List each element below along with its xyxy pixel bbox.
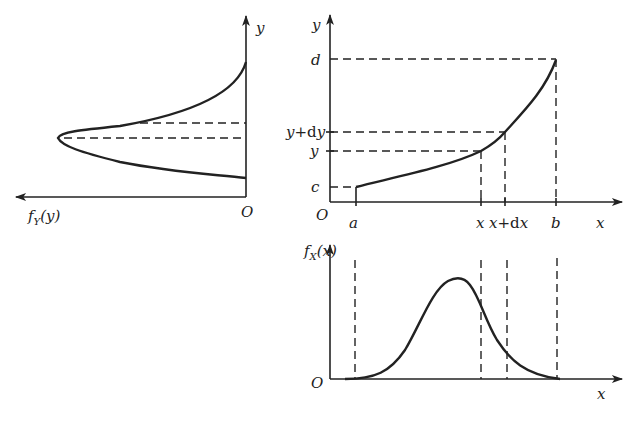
- tr-label-a: a: [349, 214, 358, 232]
- bottom-panel: fX(x) O x: [303, 242, 622, 403]
- diagram-canvas: y O fY(y) y x O d y+dy y c a x x+dx b: [0, 0, 638, 424]
- left-fy-label: fY(y): [27, 207, 60, 227]
- bottom-x-axis-label: x: [597, 385, 606, 403]
- bottom-fx-label: fX(x): [303, 242, 337, 262]
- left-panel: y O fY(y): [16, 16, 265, 227]
- tr-label-x: x: [476, 214, 485, 232]
- tr-label-d: d: [311, 51, 321, 69]
- tr-origin-label: O: [316, 206, 328, 224]
- left-y-axis-label: y: [255, 19, 265, 37]
- left-density-curve: [58, 62, 246, 178]
- left-origin-label: O: [241, 203, 253, 221]
- tr-label-c: c: [311, 178, 320, 196]
- tr-y-axis-label: y: [311, 16, 321, 34]
- top-right-panel: y x O d y+dy y c a x x+dx b: [285, 15, 622, 232]
- tr-x-axis-label: x: [596, 214, 605, 232]
- bottom-density-curve: [345, 278, 560, 379]
- tr-label-y: y: [309, 142, 319, 160]
- tr-label-b: b: [551, 214, 561, 232]
- tr-function-curve: [356, 60, 556, 187]
- bottom-origin-label: O: [311, 374, 323, 392]
- tr-label-xdx: x+dx: [489, 214, 529, 232]
- tr-label-ydy: y+dy: [285, 123, 326, 141]
